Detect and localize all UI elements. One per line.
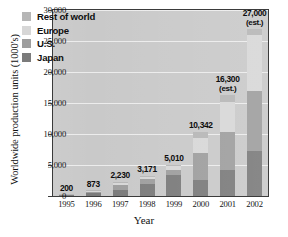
legend-label: U.S. <box>37 38 55 49</box>
bar-stack <box>193 132 208 196</box>
bar-stack <box>247 29 262 196</box>
y-axis-title: Worldwide production units (1000's) <box>9 10 20 210</box>
grid-line <box>53 72 268 73</box>
bar-segment-japan <box>166 175 181 196</box>
bar-segment-japan <box>220 170 235 196</box>
bar-value-label: 5,010 <box>151 154 197 163</box>
legend-label: Rest of world <box>37 11 95 22</box>
bar-segment-u-s <box>220 132 235 170</box>
x-axis-tick-label: 2002 <box>235 199 275 209</box>
bar-value-label: 16,300(est.) <box>205 75 251 93</box>
x-axis-title: Year <box>0 214 288 226</box>
bar-value-label: 10,342 <box>178 121 224 130</box>
legend-item-japan: Japan <box>22 51 95 65</box>
legend-item-rest-of-world: Rest of world <box>22 10 95 24</box>
estimate-note: (est.) <box>232 18 278 27</box>
bar-segment-japan <box>113 190 128 197</box>
bar-segment-japan <box>86 193 101 196</box>
figure-chart: Worldwide production units (1000's) 05,0… <box>0 0 288 237</box>
bar-segment-rest-of-world <box>193 132 208 138</box>
legend-swatch <box>22 39 31 48</box>
y-axis-tick-label: 15,000 <box>44 98 66 108</box>
y-axis-tick-mark <box>48 103 52 104</box>
bar-segment-u-s <box>247 91 262 152</box>
legend-label: Japan <box>37 52 64 63</box>
legend-swatch <box>22 53 31 62</box>
chart-legend: Rest of worldEuropeU.S.Japan <box>22 10 95 64</box>
y-axis-tick-label: 20,000 <box>44 67 66 77</box>
legend-item-u-s: U.S. <box>22 37 95 51</box>
bar-segment-japan <box>247 151 262 196</box>
legend-swatch <box>22 12 31 21</box>
bar-segment-europe <box>193 138 208 153</box>
legend-label: Europe <box>37 25 69 36</box>
grid-line <box>53 103 268 104</box>
y-axis-tick-mark <box>48 165 52 166</box>
bar-segment-japan <box>140 184 155 196</box>
y-axis-tick-label: 10,000 <box>44 129 66 139</box>
bar-segment-japan <box>193 180 208 196</box>
bar-segment-rest-of-world <box>247 29 262 35</box>
y-axis-tick-mark <box>48 196 52 197</box>
legend-item-europe: Europe <box>22 24 95 38</box>
grid-line <box>53 134 268 135</box>
bar-value-label: 3,171 <box>124 165 170 174</box>
legend-swatch <box>22 26 31 35</box>
y-axis-tick-mark <box>48 72 52 73</box>
y-axis-tick-mark <box>48 134 52 135</box>
bar-segment-rest-of-world <box>220 95 235 102</box>
bar-value-label: 873 <box>70 180 116 189</box>
bar-stack <box>220 95 235 196</box>
estimate-note: (est.) <box>205 84 251 93</box>
bar-value-label: 27,000(est.) <box>232 9 278 27</box>
